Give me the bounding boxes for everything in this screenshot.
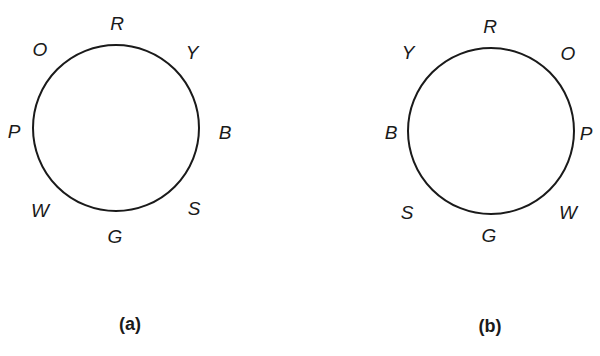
diagram-canvas: R Y B S G W P O (a) R O P W G S B Y (b) (0, 0, 600, 356)
caption-a: (a) (119, 315, 141, 333)
label-b-0: R (483, 17, 497, 36)
label-a-2: B (219, 123, 232, 142)
label-a-1: Y (186, 43, 199, 62)
circle-b (407, 47, 575, 215)
label-b-1: O (561, 44, 576, 63)
label-b-2: P (580, 124, 593, 143)
label-a-4: G (108, 227, 123, 246)
label-b-3: W (559, 203, 577, 222)
label-b-7: Y (402, 43, 415, 62)
label-b-6: B (385, 123, 398, 142)
label-a-7: O (33, 40, 48, 59)
caption-b: (b) (479, 317, 502, 335)
label-a-3: S (188, 199, 201, 218)
label-b-5: S (401, 203, 414, 222)
label-a-5: W (31, 201, 49, 220)
label-b-4: G (482, 226, 497, 245)
label-a-0: R (110, 14, 124, 33)
circle-a (32, 44, 200, 212)
label-a-6: P (8, 122, 21, 141)
